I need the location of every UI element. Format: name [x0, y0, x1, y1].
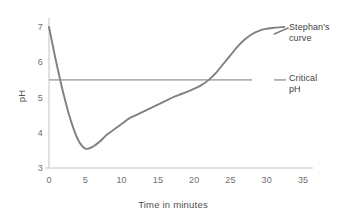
stephans-curve-label: Stephan's curve: [289, 22, 330, 44]
stephans-curve-leader-line: [274, 28, 288, 34]
x-tick-label-35: 35: [298, 176, 308, 185]
x-tick-label-0: 0: [46, 176, 51, 185]
x-tick-label-5: 5: [83, 176, 88, 185]
x-tick-label-25: 25: [225, 176, 235, 185]
y-tick-label-3: 3: [38, 164, 43, 173]
critical-ph-label-line2: pH: [289, 84, 317, 95]
stephans-curve-label-line1: Stephan's: [289, 22, 330, 33]
y-axis-title: pH: [17, 90, 27, 103]
stephans-curve-label-line2: curve: [289, 33, 330, 44]
y-tick-label-6: 6: [38, 58, 43, 67]
x-tick-label-10: 10: [116, 176, 126, 185]
critical-ph-label: Critical pH: [289, 73, 317, 95]
x-tick-label-15: 15: [153, 176, 163, 185]
y-tick-label-5: 5: [38, 93, 43, 102]
stephans-curve-line: [49, 27, 284, 149]
x-tick-label-20: 20: [189, 176, 199, 185]
y-tick-label-7: 7: [38, 23, 43, 32]
x-axis-title: Time in minutes: [138, 200, 208, 210]
y-tick-label-4: 4: [38, 128, 43, 137]
chart-container: 3 4 5 6 7 0 5 10 15 20 25 30 35 Time in …: [0, 0, 347, 218]
x-tick-label-30: 30: [262, 176, 272, 185]
critical-ph-label-line1: Critical: [289, 73, 317, 84]
